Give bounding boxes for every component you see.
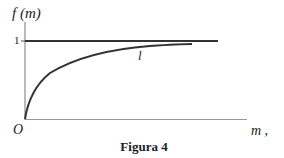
curve-l bbox=[25, 44, 192, 119]
diagram-canvas bbox=[0, 0, 284, 158]
y-axis-label: f (m) bbox=[12, 6, 41, 21]
figure-caption: Figura 4 bbox=[0, 140, 284, 153]
x-axis-label: m , bbox=[251, 124, 268, 138]
tick-label-one: 1 bbox=[14, 35, 20, 46]
curve-label: l bbox=[138, 49, 142, 62]
origin-label: O bbox=[13, 123, 23, 137]
